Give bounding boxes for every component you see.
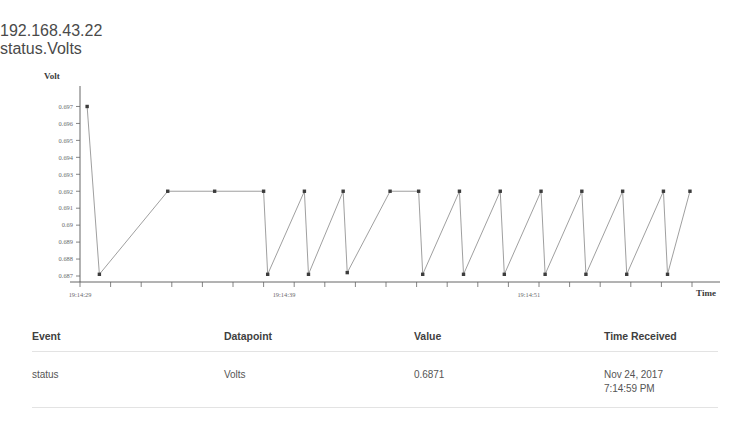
series-data-point bbox=[584, 273, 587, 276]
column-header-time-received: Time Received bbox=[604, 330, 718, 342]
chart-canvas: 0.6970.6960.6950.6940.6930.6920.6910.690… bbox=[0, 62, 750, 312]
series-data-point bbox=[539, 190, 542, 193]
series-data-point bbox=[662, 190, 665, 193]
series-data-point bbox=[421, 273, 424, 276]
series-data-point bbox=[98, 273, 101, 276]
series-plot-area bbox=[85, 105, 691, 276]
series-data-point bbox=[307, 273, 310, 276]
y-tick-label: 0.697 bbox=[59, 103, 74, 110]
cell-value: 0.6871 bbox=[414, 368, 604, 382]
device-ip-label: 192.168.43.22 bbox=[0, 22, 750, 40]
y-tick-label: 0.696 bbox=[59, 120, 73, 127]
y-tick-label: 0.687 bbox=[59, 272, 74, 279]
cell-event: status bbox=[32, 368, 224, 382]
y-tick-label: 0.691 bbox=[59, 204, 73, 211]
y-tick-label: 0.694 bbox=[59, 154, 74, 161]
series-data-point bbox=[621, 190, 624, 193]
y-axis: 0.6970.6960.6950.6940.6930.6920.6910.690… bbox=[59, 86, 80, 282]
series-data-point bbox=[543, 273, 546, 276]
series-data-point bbox=[503, 273, 506, 276]
cell-time-received: Nov 24, 2017 7:14:59 PM bbox=[604, 368, 718, 396]
y-tick-label: 0.695 bbox=[59, 137, 73, 144]
time-received-clock: 7:14:59 PM bbox=[604, 382, 718, 396]
series-data-point bbox=[166, 190, 169, 193]
x-axis: 19:14:2919:14:3919:14:51 bbox=[69, 282, 720, 298]
table-row[interactable]: status Volts 0.6871 Nov 24, 2017 7:14:59… bbox=[32, 352, 718, 408]
series-data-point bbox=[580, 190, 583, 193]
y-tick-label: 0.688 bbox=[59, 255, 73, 262]
time-received-date: Nov 24, 2017 bbox=[604, 368, 718, 382]
cell-datapoint: Volts bbox=[224, 368, 414, 382]
y-tick-label: 0.693 bbox=[59, 171, 73, 178]
series-data-point bbox=[499, 190, 502, 193]
series-data-point bbox=[303, 190, 306, 193]
series-data-point bbox=[262, 190, 265, 193]
column-header-datapoint: Datapoint bbox=[224, 330, 414, 342]
series-data-point bbox=[688, 190, 691, 193]
x-tick-label: 19:14:39 bbox=[273, 291, 296, 298]
column-header-event: Event bbox=[32, 330, 224, 342]
series-data-point bbox=[346, 271, 349, 274]
y-axis-title: Volt bbox=[44, 71, 60, 81]
series-data-point bbox=[341, 190, 344, 193]
x-axis-title: Time bbox=[696, 288, 716, 298]
series-data-point bbox=[458, 190, 461, 193]
column-header-value: Value bbox=[414, 330, 604, 342]
y-tick-label: 0.69 bbox=[62, 221, 73, 228]
series-data-point bbox=[666, 273, 669, 276]
series-data-point bbox=[625, 273, 628, 276]
series-data-point bbox=[213, 190, 216, 193]
events-table: Event Datapoint Value Time Received stat… bbox=[32, 330, 718, 408]
x-tick-label: 19:14:29 bbox=[69, 291, 92, 298]
series-data-point bbox=[417, 190, 420, 193]
y-tick-label: 0.692 bbox=[59, 188, 73, 195]
series-data-point bbox=[266, 273, 269, 276]
y-tick-label: 0.689 bbox=[59, 238, 73, 245]
series-data-point bbox=[462, 273, 465, 276]
x-tick-label: 19:14:51 bbox=[517, 291, 540, 298]
table-header-row: Event Datapoint Value Time Received bbox=[32, 330, 718, 352]
volts-chart: 0.6970.6960.6950.6940.6930.6920.6910.690… bbox=[0, 62, 750, 312]
series-data-point bbox=[388, 190, 391, 193]
page-header: 192.168.43.22 status.Volts bbox=[0, 22, 750, 40]
series-data-point bbox=[85, 105, 88, 108]
metric-name-label: status.Volts bbox=[0, 40, 750, 58]
